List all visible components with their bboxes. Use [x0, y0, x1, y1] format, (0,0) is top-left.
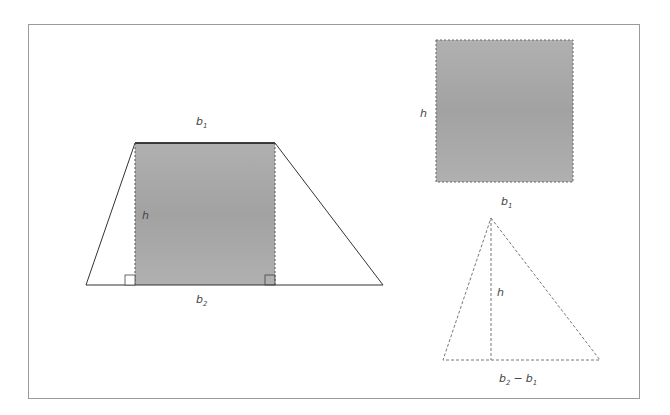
rectangle-shape [436, 40, 573, 182]
trapezoid-figure: b1 h b2 [86, 115, 383, 308]
left-right-angle-marker [125, 275, 135, 285]
trapezoid-height-label: h [142, 209, 149, 222]
triangle-outline [443, 218, 600, 360]
trapezoid-bottom-label: b2 [196, 293, 208, 308]
rectangle-figure: h b1 [420, 40, 573, 210]
diagram-canvas: b1 h b2 h b1 h b2−b1 [0, 0, 670, 415]
trapezoid-shaded-rectangle [135, 143, 275, 285]
triangle-figure: h b2−b1 [443, 218, 600, 387]
triangle-height-label: h [497, 286, 504, 299]
rectangle-width-label: b1 [501, 195, 512, 210]
rectangle-height-label: h [420, 107, 427, 120]
trapezoid-top-label: b1 [196, 115, 207, 130]
triangle-base-label: b2−b1 [499, 372, 537, 387]
